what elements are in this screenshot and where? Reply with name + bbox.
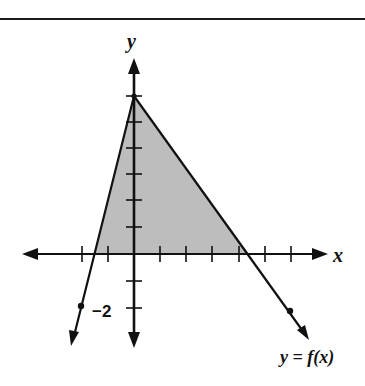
tick-label-minus-2: −2 bbox=[92, 302, 111, 321]
x-axis-label: x bbox=[332, 244, 343, 266]
y-axis-label: y bbox=[125, 30, 136, 53]
x-axis-right-arrow-icon bbox=[312, 248, 328, 260]
left-point bbox=[78, 303, 84, 309]
left-line-arrow-icon bbox=[69, 330, 79, 346]
function-graph: y x −2 y = f(x) bbox=[0, 0, 365, 386]
right-point bbox=[287, 308, 293, 314]
y-axis-down-arrow-icon bbox=[128, 332, 140, 348]
function-label: y = f(x) bbox=[278, 347, 334, 368]
x-axis-left-arrow-icon bbox=[22, 248, 38, 260]
shaded-region bbox=[95, 96, 249, 254]
apex-point bbox=[131, 93, 136, 98]
y-axis-up-arrow-icon bbox=[128, 58, 140, 74]
